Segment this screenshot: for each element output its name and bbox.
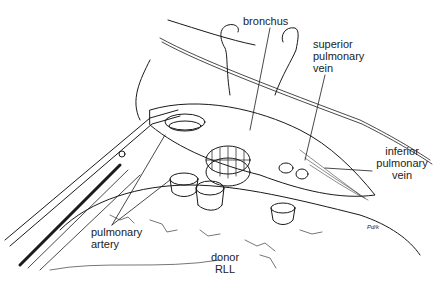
label-bronchus: bronchus <box>243 15 288 27</box>
label-spv-line2: pulmonary <box>313 50 364 62</box>
label-pulmonary-artery: pulmonary artery <box>91 226 142 250</box>
label-pa-line1: pulmonary <box>91 226 142 238</box>
label-superior-pulmonary-vein: superior pulmonary vein <box>313 38 364 74</box>
label-rll-line1: donor <box>205 251 245 263</box>
label-ipv-line3: vein <box>372 169 432 181</box>
label-spv-line3: vein <box>313 62 364 74</box>
label-bronchus-text: bronchus <box>243 15 288 27</box>
artist-signature: Pd/k <box>367 221 379 233</box>
surgical-illustration: bronchus superior pulmonary vein inferio… <box>0 0 433 297</box>
label-spv-line1: superior <box>313 38 364 50</box>
label-donor-rll: donor RLL <box>205 251 245 275</box>
label-ipv-line2: pulmonary <box>372 157 432 169</box>
label-pa-line2: artery <box>91 238 142 250</box>
label-ipv-line1: inferior <box>372 145 432 157</box>
label-rll-line2: RLL <box>205 263 245 275</box>
label-inferior-pulmonary-vein: inferior pulmonary vein <box>372 145 432 181</box>
